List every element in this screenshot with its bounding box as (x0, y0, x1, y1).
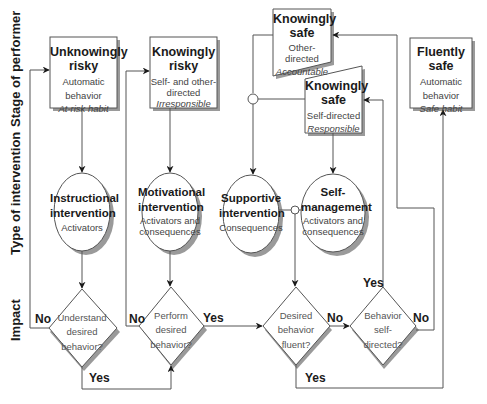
edge-label-yes-3: Yes (305, 371, 326, 385)
decision-self-directed: Behavior self- directed? (358, 309, 408, 352)
intervention-self-management: Self- management Activators and conseque… (301, 186, 365, 238)
stage-title: Knowingly (273, 12, 331, 26)
stage-fluently-safe: Fluently safe Automatic behavior Safe ha… (410, 45, 472, 115)
decision-perform: Perform desired behavior? (146, 309, 196, 352)
stage-label: At-risk habit (50, 104, 117, 115)
stage-desc: Other-directed (273, 43, 331, 65)
decision-text: behavior? (146, 338, 196, 352)
stage-title: safe (305, 93, 362, 107)
decision-understand: Understand desired behavior? (57, 311, 107, 354)
stage-knowingly-risky: Knowingly risky Self- and other- directe… (150, 45, 217, 110)
stage-title: safe (273, 26, 331, 40)
edge-label-no-4: No (413, 311, 429, 325)
stage-desc: behavior (50, 91, 117, 102)
stage-title: Knowingly (150, 45, 217, 59)
stage-title: risky (50, 59, 117, 73)
edge-label-no-1: No (35, 312, 51, 326)
intervention-title: management (301, 201, 365, 214)
decision-text: self- (358, 323, 408, 337)
stage-desc: Automatic (410, 77, 472, 88)
edge-label-yes-1: Yes (89, 371, 110, 385)
decision-text: Desired (271, 309, 321, 323)
stage-title: Unknowingly (50, 45, 117, 59)
decision-text: behavior (271, 323, 321, 337)
stage-knowingly-safe-self: Knowingly safe Self-directed Responsible (305, 79, 362, 135)
axis-label-stage: Stage of performer (8, 11, 23, 127)
decision-text: Understand (57, 311, 107, 325)
decision-fluent: Desired behavior fluent? (271, 309, 321, 352)
edge-label-yes-4: Yes (363, 276, 384, 290)
decision-text: desired (146, 323, 196, 337)
decision-text: behavior? (57, 340, 107, 354)
stage-title: safe (410, 59, 472, 73)
decision-text: directed? (358, 338, 408, 352)
decision-text: Behavior (358, 309, 408, 323)
stage-label: Irresponsible (150, 99, 217, 110)
edge-label-no-2: No (129, 312, 145, 326)
intervention-desc: consequences (138, 227, 202, 238)
stage-label: Safe habit (410, 104, 472, 115)
axis-label-impact: Impact (8, 299, 23, 341)
stage-label: Responsible (305, 124, 362, 135)
intervention-title: Self- (301, 186, 365, 199)
decision-text: desired (57, 325, 107, 339)
intervention-title: Supportive (219, 192, 283, 205)
intervention-title: intervention (219, 207, 283, 220)
intervention-title: Instructional (50, 192, 114, 205)
intervention-title: intervention (50, 207, 114, 220)
axis-label-intervention: Type of intervention (8, 132, 23, 255)
intervention-title: Motivational (138, 186, 202, 199)
stage-desc: behavior (410, 91, 472, 102)
intervention-instructional: Instructional intervention Activators (50, 192, 114, 234)
intervention-supportive: Supportive intervention Consequences (219, 192, 283, 234)
intervention-desc: Activators (50, 223, 114, 234)
stage-desc: directed (150, 88, 217, 99)
intervention-motivational: Motivational intervention Activators and… (138, 186, 202, 238)
stage-unknowingly-risky: Unknowingly risky Automatic behavior At-… (50, 45, 117, 115)
edge-label-yes-2: Yes (203, 311, 224, 325)
decision-text: fluent? (271, 338, 321, 352)
stage-title: Knowingly (305, 79, 362, 93)
decision-text: Perform (146, 309, 196, 323)
stage-knowingly-safe-other: Knowingly safe Other-directed Accountabl… (273, 12, 331, 78)
stage-title: risky (150, 59, 217, 73)
intervention-desc: consequences (301, 227, 365, 238)
intervention-title: intervention (138, 201, 202, 214)
edge-label-no-3: No (327, 311, 343, 325)
stage-desc: Automatic (50, 77, 117, 88)
stage-label: Accountable (273, 67, 331, 78)
stage-title: Fluently (410, 45, 472, 59)
stage-desc: Self-directed (305, 111, 362, 122)
intervention-desc: Consequences (219, 223, 283, 234)
